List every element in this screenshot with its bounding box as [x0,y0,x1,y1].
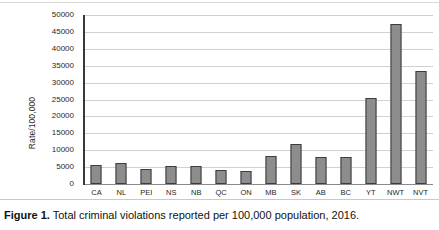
y-axis-tick-label: 15000 [4,128,74,137]
bar-slot [184,15,209,184]
bar-slot [383,15,408,184]
x-axis-tick-label-sk: SK [291,188,301,197]
bar-yt [365,98,376,184]
x-axis-tick-label-mb: MB [265,188,276,197]
bar-nwt [390,24,401,184]
x-axis-tick-label-ns: NS [166,188,176,197]
bar-slot [308,15,333,184]
bar-qc [216,170,227,184]
caption-divider [0,199,439,200]
gridline [84,184,433,185]
y-axis-title: Rate/100,000 [27,75,37,171]
figure-caption-text: Total criminal violations reported per 1… [50,209,359,221]
bar-ca [91,165,102,184]
y-axis-tick-label: 25000 [4,95,74,104]
bar-nvt [415,71,426,184]
x-axis-tick-label-on: ON [240,188,251,197]
bar-slot [159,15,184,184]
x-axis-tick-label-qc: QC [215,188,226,197]
x-axis-tick-label-nb: NB [191,188,201,197]
y-axis-tick-label: 5000 [4,162,74,171]
x-axis-tick-label-bc: BC [341,188,351,197]
bar-slot [134,15,159,184]
bar-slot [234,15,259,184]
figure-caption-label: Figure 1. [4,209,50,221]
bar-slot [408,15,433,184]
x-axis-tick-label-ca: CA [91,188,101,197]
bar-slot [283,15,308,184]
bar-slot [209,15,234,184]
bar-ns [166,166,177,184]
x-axis-tick-label-nvt: NVT [413,188,428,197]
bar-on [241,171,252,184]
x-axis-tick-label-nl: NL [117,188,127,197]
bars-layer [84,15,433,184]
figure-container: Rate/100,000 500004500040000350003000025… [0,0,439,230]
bar-nb [191,166,202,184]
y-axis-tick-label: 40000 [4,44,74,53]
figure-caption: Figure 1. Total criminal violations repo… [4,208,436,222]
y-axis-tick-label: 0 [4,179,74,188]
x-axis-tick-label-ab: AB [316,188,326,197]
y-axis-tick-label: 50000 [4,10,74,19]
bar-slot [333,15,358,184]
x-axis-tick-label-pei: PEI [140,188,152,197]
bar-slot [358,15,383,184]
y-axis-tick-label: 10000 [4,145,74,154]
bar-ab [315,157,326,184]
y-axis-tick-label: 45000 [4,27,74,36]
bar-slot [109,15,134,184]
bar-slot [259,15,284,184]
bar-bc [340,157,351,184]
bar-mb [265,156,276,184]
x-axis-tick-label-yt: YT [366,188,376,197]
bar-slot [84,15,109,184]
y-axis-tick-label: 30000 [4,78,74,87]
bar-nl [116,163,127,184]
bar-chart: Rate/100,000 500004500040000350003000025… [0,6,439,198]
y-axis-tick-label: 20000 [4,111,74,120]
bar-pei [141,169,152,184]
y-axis-tick-label: 35000 [4,61,74,70]
x-axis-tick-label-nwt: NWT [387,188,404,197]
bar-sk [290,144,301,184]
